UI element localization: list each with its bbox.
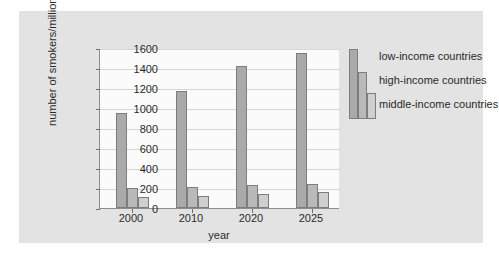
x-tick-label: 2025 [286,213,336,224]
x-tick-label: 2020 [226,213,276,224]
legend-swatch-high-income [358,72,367,119]
chart-legend: low-income countries high-income countri… [349,49,499,119]
y-tick-label: 400 [140,164,158,175]
x-axis-label: year [99,229,339,241]
legend-label-high-income: high-income countries [379,75,487,86]
y-tick-label: 1400 [134,64,158,75]
legend-swatch-low-income [349,49,358,119]
bar-2000-low [116,113,127,208]
bar-2025-middle [318,192,329,209]
bar-2010-middle [198,196,209,209]
y-tick-mark [96,129,100,130]
legend-label-middle-income: middle-income countries [379,99,498,110]
bar-2020-low [236,66,247,209]
y-tick-mark [96,109,100,110]
bar-group [236,48,269,208]
y-tick-label: 600 [140,144,158,155]
bar-2000-middle [138,197,149,209]
bar-2010-high [187,187,198,209]
y-tick-mark [96,189,100,190]
legend-label-low-income: low-income countries [379,51,482,62]
y-axis-label: number of smokers/millions [46,0,58,139]
y-tick-label: 800 [140,124,158,135]
bar-2025-high [307,184,318,209]
y-tick-mark [96,89,100,90]
y-tick-label: 1000 [134,104,158,115]
bar-group [176,48,209,208]
x-tick-label: 2000 [106,213,156,224]
y-tick-mark [96,149,100,150]
bar-2025-low [296,53,307,208]
y-tick-mark [96,209,100,210]
y-tick-mark [96,69,100,70]
chart-panel: number of smokers/millions year low-inco… [19,11,483,243]
bar-2010-low [176,91,187,208]
bar-2000-high [127,188,138,208]
bar-group [296,48,329,208]
y-tick-label: 1200 [134,84,158,95]
legend-swatch-middle-income [367,93,376,119]
y-tick-mark [96,49,100,50]
x-tick-label: 2010 [166,213,216,224]
bar-2020-middle [258,194,269,209]
y-tick-mark [96,169,100,170]
bar-2020-high [247,185,258,209]
y-tick-label: 1600 [134,44,158,55]
y-tick-label: 200 [140,184,158,195]
